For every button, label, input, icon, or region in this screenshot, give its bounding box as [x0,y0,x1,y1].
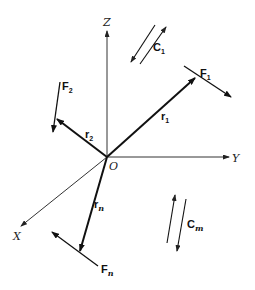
fn-label: Fn [101,263,114,278]
diagram-svg: Z Y X O r1 F1 r2 F2 [0,0,255,290]
z-axis: Z [102,16,111,157]
y-axis-label: Y [232,152,241,165]
vector-rn: rn [80,157,107,251]
vector-r1: r1 [107,78,195,157]
y-axis: Y [107,152,241,165]
c1-label: C1 [153,41,165,55]
f1-label: F1 [200,67,211,81]
couple-c1: C1 [131,25,166,64]
r1-label: r1 [161,110,169,124]
x-axis-label: X [12,230,22,243]
couple-cm: Cm [167,195,203,251]
x-axis: X [12,157,107,243]
force-system-diagram: Z Y X O r1 F1 r2 F2 [0,0,255,290]
cm-label: Cm [187,218,203,233]
f2-label: F2 [62,80,73,94]
rn-label: rn [94,198,104,213]
origin-label: O [109,160,118,173]
r2-label: r2 [85,128,93,142]
vector-r2: r2 [57,119,107,157]
z-axis-label: Z [102,16,111,29]
